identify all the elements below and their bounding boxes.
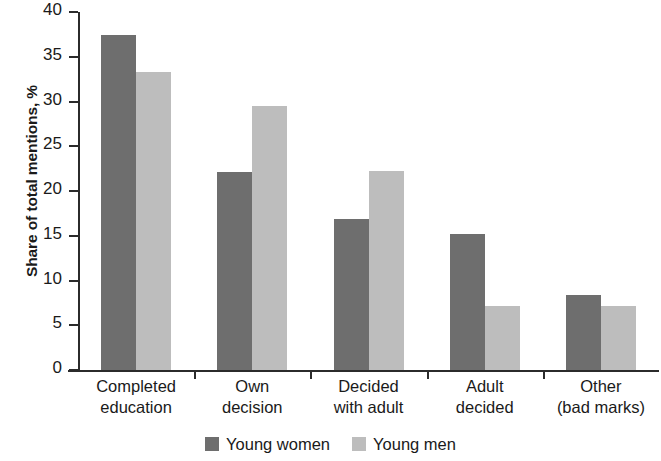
- legend: Young womenYoung men: [0, 435, 661, 453]
- x-axis-label-line: Other: [543, 376, 659, 397]
- y-tick: 5: [69, 324, 78, 326]
- legend-swatch-icon: [352, 437, 366, 451]
- y-tick: 35: [69, 56, 78, 58]
- x-axis-label-line: Own: [194, 376, 310, 397]
- y-tick: 0: [69, 369, 78, 371]
- legend-item[interactable]: Young women: [205, 435, 330, 453]
- bar: [369, 171, 404, 370]
- y-tick-label: 15: [43, 224, 62, 244]
- y-tick-label: 25: [43, 134, 62, 154]
- y-tick: 30: [69, 101, 78, 103]
- y-axis-title: Share of total mentions, %: [23, 31, 41, 331]
- bar: [485, 306, 520, 370]
- bar-chart: Share of total mentions, % 0510152025303…: [0, 0, 661, 461]
- legend-swatch-icon: [205, 437, 219, 451]
- x-axis-label-line: Adult: [427, 376, 543, 397]
- y-tick: 25: [69, 145, 78, 147]
- y-tick-label: 5: [53, 313, 62, 333]
- bar: [334, 219, 369, 370]
- x-axis-label-line: Decided: [310, 376, 426, 397]
- bar: [601, 306, 636, 370]
- legend-label: Young men: [373, 435, 456, 453]
- y-tick: 20: [69, 190, 78, 192]
- y-tick-label: 20: [43, 179, 62, 199]
- y-tick: 40: [69, 11, 78, 13]
- y-tick: 15: [69, 235, 78, 237]
- x-axis-label: Owndecision: [194, 376, 310, 418]
- y-axis-line: [78, 12, 80, 370]
- x-axis-label: Completededucation: [78, 376, 194, 418]
- bar: [566, 295, 601, 370]
- y-tick-label: 0: [53, 358, 62, 378]
- x-axis-label-line: with adult: [310, 397, 426, 418]
- x-axis-label-line: Completed: [78, 376, 194, 397]
- bar: [217, 172, 252, 370]
- x-axis-label-line: (bad marks): [543, 397, 659, 418]
- x-axis-label: Adultdecided: [427, 376, 543, 418]
- x-axis-label-line: education: [78, 397, 194, 418]
- y-tick-label: 40: [43, 0, 62, 20]
- x-axis-label-line: decision: [194, 397, 310, 418]
- bar: [136, 72, 171, 370]
- x-axis-label: Decidedwith adult: [310, 376, 426, 418]
- bar: [252, 106, 287, 370]
- y-tick: 10: [69, 280, 78, 282]
- legend-label: Young women: [226, 435, 330, 453]
- bar: [101, 35, 136, 370]
- bar: [450, 234, 485, 370]
- x-axis-label: Other(bad marks): [543, 376, 659, 418]
- y-tick-label: 10: [43, 269, 62, 289]
- x-axis-label-line: decided: [427, 397, 543, 418]
- x-axis-line: [68, 370, 659, 372]
- plot-area: 0510152025303540: [78, 12, 659, 370]
- legend-item[interactable]: Young men: [352, 435, 456, 453]
- y-tick-label: 30: [43, 90, 62, 110]
- y-tick-label: 35: [43, 45, 62, 65]
